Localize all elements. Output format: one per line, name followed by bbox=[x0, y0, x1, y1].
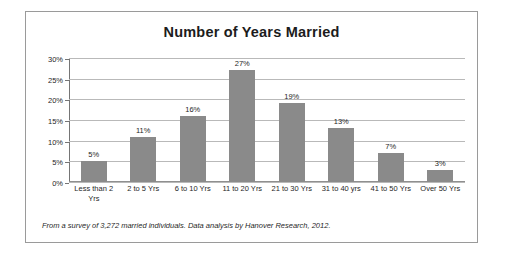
chart-title: Number of Years Married bbox=[26, 24, 477, 40]
bar[interactable]: 7% bbox=[378, 153, 404, 182]
bar[interactable]: 5% bbox=[81, 161, 107, 182]
y-tick-label: 10% bbox=[48, 137, 63, 146]
bar-slot: 7% bbox=[366, 58, 416, 182]
bar[interactable]: 3% bbox=[427, 170, 453, 182]
bar-series: 5%11%16%27%19%13%7%3% bbox=[69, 58, 465, 182]
bar[interactable]: 19% bbox=[279, 103, 305, 182]
bar-value-label: 11% bbox=[136, 126, 150, 135]
bar-value-label: 13% bbox=[334, 117, 349, 126]
bar-value-label: 27% bbox=[235, 59, 250, 68]
y-tick-label: 30% bbox=[48, 55, 63, 64]
y-tick-label: 15% bbox=[48, 117, 63, 126]
x-tick-label: 21 to 30 Yrs bbox=[267, 184, 317, 204]
y-tick-label: 5% bbox=[52, 158, 63, 167]
x-tick-label: 41 to 50 Yrs bbox=[366, 184, 416, 204]
bar-value-label: 3% bbox=[435, 159, 446, 168]
x-tick-label: 11 to 20 Yrs bbox=[218, 184, 268, 204]
bar-slot: 19% bbox=[267, 58, 317, 182]
bar-slot: 5% bbox=[69, 58, 119, 182]
x-axis-labels: Less than 2 Yrs2 to 5 Yrs6 to 10 Yrs11 t… bbox=[69, 184, 465, 204]
bar-slot: 27% bbox=[218, 58, 268, 182]
bar-slot: 16% bbox=[168, 58, 218, 182]
y-tick-label: 25% bbox=[48, 75, 63, 84]
x-tick-label: Less than 2 Yrs bbox=[69, 184, 119, 204]
bar-value-label: 19% bbox=[284, 92, 299, 101]
bar-slot: 3% bbox=[416, 58, 466, 182]
bar[interactable]: 11% bbox=[130, 137, 156, 182]
bar-value-label: 16% bbox=[185, 105, 200, 114]
bar[interactable]: 27% bbox=[229, 70, 255, 182]
chart-annotation: From a survey of 3,272 married individua… bbox=[42, 221, 330, 230]
gridline: 0% bbox=[69, 182, 465, 183]
bar[interactable]: 16% bbox=[180, 116, 206, 182]
bar-slot: 13% bbox=[317, 58, 367, 182]
x-tick-label: 31 to 40 yrs bbox=[317, 184, 367, 204]
plot-area: 30%25%20%15%10%5%0% 5%11%16%27%19%13%7%3… bbox=[69, 58, 465, 182]
x-tick-label: 2 to 5 Yrs bbox=[119, 184, 169, 204]
x-tick-label: Over 50 Yrs bbox=[416, 184, 466, 204]
bar-slot: 11% bbox=[119, 58, 169, 182]
bar[interactable]: 13% bbox=[328, 128, 354, 182]
y-tick-label: 20% bbox=[48, 96, 63, 105]
bar-value-label: 7% bbox=[385, 142, 396, 151]
bar-value-label: 5% bbox=[88, 150, 99, 159]
x-tick-label: 6 to 10 Yrs bbox=[168, 184, 218, 204]
chart-figure: Number of Years Married 30%25%20%15%10%5… bbox=[25, 11, 478, 243]
y-tick-label: 0% bbox=[52, 179, 63, 188]
